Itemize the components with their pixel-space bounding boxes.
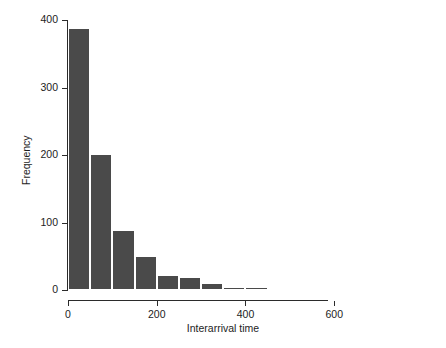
y-axis-tick-label: 300 — [22, 81, 58, 93]
y-axis-tick — [62, 155, 67, 156]
x-axis-tick — [157, 301, 158, 306]
y-axis-tick — [62, 88, 67, 89]
histogram-bar — [90, 154, 112, 290]
histogram-bar — [157, 275, 179, 290]
x-axis-tick-label: 600 — [314, 308, 354, 320]
y-axis-tick-label: 100 — [22, 216, 58, 228]
histogram-bar — [135, 256, 157, 290]
x-axis-line — [68, 300, 328, 301]
x-axis-tick-label: 0 — [48, 308, 88, 320]
x-axis-tick — [245, 301, 246, 306]
y-axis-tick-label: 0 — [22, 283, 58, 295]
y-axis-label: Frequency — [20, 135, 32, 185]
histogram-figure: 0100200300400 0200400600 Interarrival ti… — [0, 0, 446, 348]
y-axis-tick — [62, 223, 67, 224]
histogram-bar — [179, 277, 201, 291]
x-axis-tick — [334, 301, 335, 306]
y-axis-tick — [62, 20, 67, 21]
histogram-bar — [223, 287, 245, 290]
x-axis-tick — [68, 301, 69, 306]
plot-area: 0100200300400 0200400600 Interarrival ti… — [0, 0, 446, 348]
histogram-bar — [201, 283, 223, 290]
y-axis-tick-label: 400 — [22, 13, 58, 25]
histogram-bar — [245, 287, 267, 290]
histogram-bar — [356, 289, 378, 291]
histogram-bar — [112, 230, 134, 290]
y-axis-tick — [62, 290, 67, 291]
histogram-bar — [290, 289, 312, 291]
x-axis-tick-label: 400 — [225, 308, 265, 320]
x-axis-label: Interarrival time — [0, 322, 446, 334]
histogram-bar — [68, 28, 90, 290]
x-axis-tick-label: 200 — [137, 308, 177, 320]
